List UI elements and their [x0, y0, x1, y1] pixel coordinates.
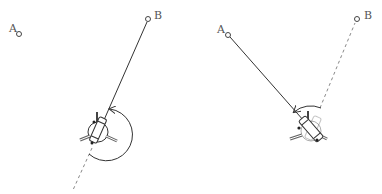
left-diagram: A B [0, 0, 191, 194]
point-a-label: A [8, 22, 18, 35]
point-b-marker [146, 17, 151, 22]
line-to-b [104, 22, 147, 120]
point-a-marker [226, 33, 231, 38]
point-a-label: A [216, 23, 226, 36]
point-b-label: B [154, 9, 162, 22]
point-b-label: B [364, 9, 372, 22]
point-b-marker [355, 17, 360, 22]
robot-icon [290, 111, 327, 143]
line-to-a [230, 37, 304, 121]
right-diagram: A B [191, 0, 382, 194]
point-a-marker [17, 32, 22, 37]
robot-icon [80, 112, 117, 145]
right-diagram-panel: A B [191, 0, 382, 194]
dashed-line-to-b [320, 23, 355, 108]
left-diagram-panel: A B [0, 0, 191, 194]
